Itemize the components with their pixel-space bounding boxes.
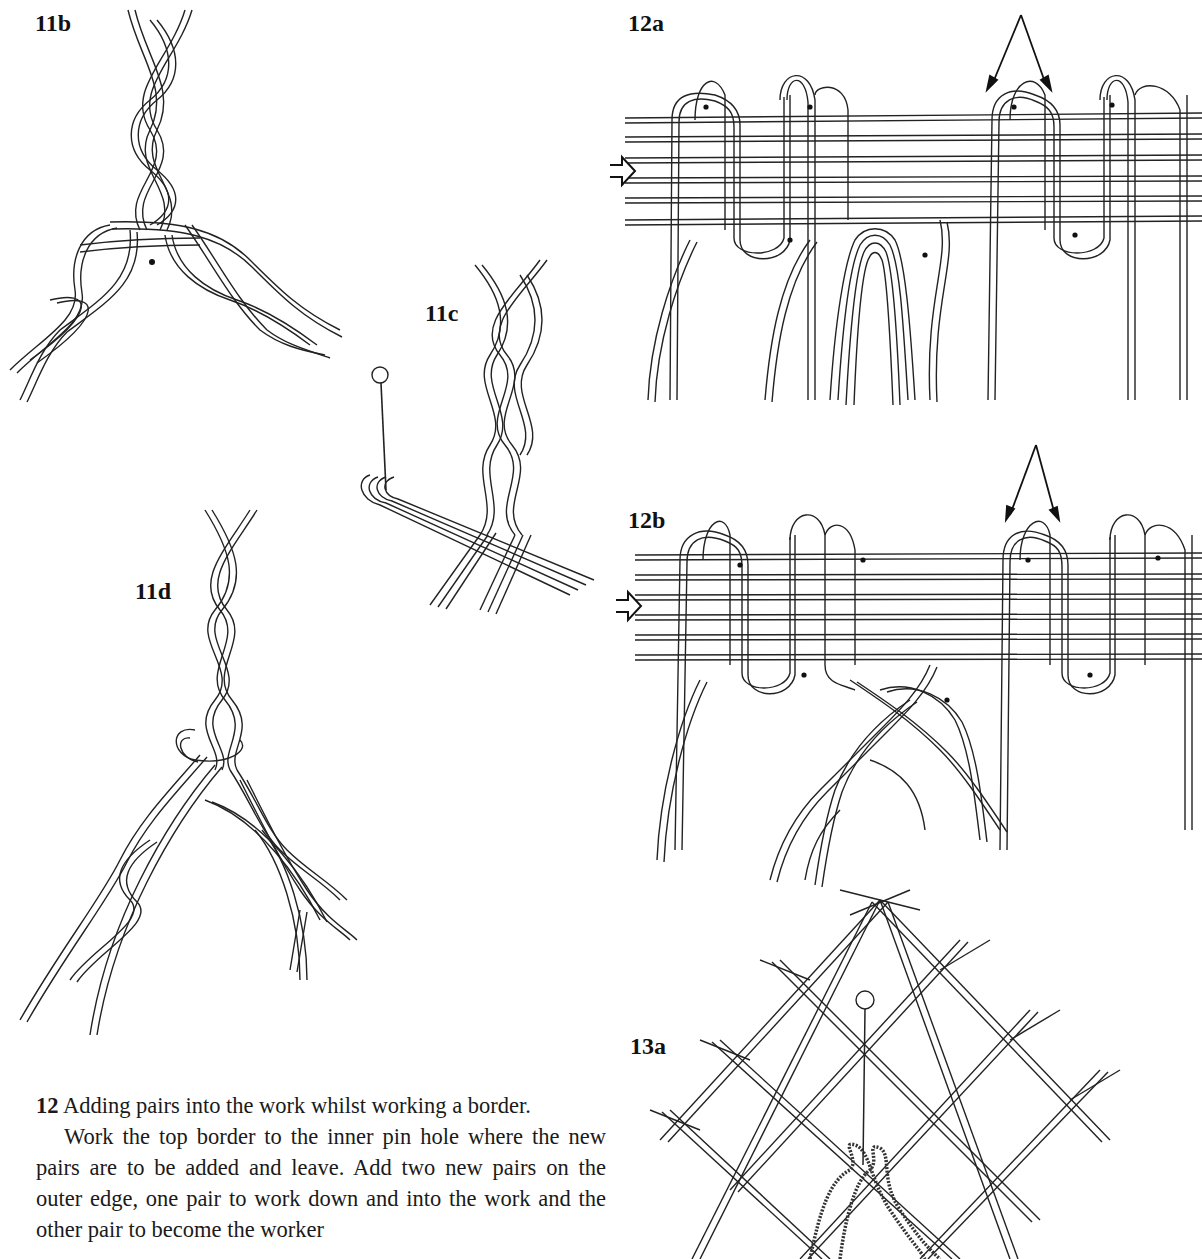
pin-head-icon: [372, 367, 388, 383]
pin-shaft: [381, 383, 386, 490]
border-adding-pairs-illustration-b: [580, 430, 1202, 890]
figure-11b: [0, 0, 360, 420]
twisted-ground-illustration: [580, 880, 1202, 1259]
border-loops: [670, 76, 1187, 400]
border-adding-pairs-illustration-a: [580, 0, 1202, 420]
plait-under-border: [770, 665, 1007, 887]
passive-threads: [625, 113, 1202, 225]
left-strands: [648, 240, 697, 402]
caption-title: Adding pairs into the work whilst workin…: [63, 1093, 531, 1118]
figure-12b: [580, 430, 1202, 890]
figure-12a: [580, 0, 1202, 420]
pin-shaft: [863, 1009, 865, 1165]
plait-split-illustration: [0, 0, 360, 420]
figure-caption: 12 Adding pairs into the work whilst wor…: [36, 1090, 606, 1245]
worker-pair-threads: [810, 1144, 940, 1259]
pin-head-icon: [856, 991, 874, 1009]
direction-arrow-icon: [616, 592, 641, 620]
plait-divide-illustration: [0, 500, 440, 1040]
pin-hole-dot: [149, 259, 155, 265]
direction-arrow-icon: [610, 157, 635, 185]
figure-11d: [0, 500, 440, 1040]
arrow-pointers: [1006, 445, 1059, 520]
caption-body: Work the top border to the inner pin hol…: [36, 1121, 606, 1245]
caption-number: 12: [36, 1093, 59, 1118]
added-pairs: [765, 220, 949, 405]
caption-heading: 12 Adding pairs into the work whilst wor…: [36, 1090, 606, 1121]
figure-13a: [580, 880, 1202, 1259]
arrow-pointers: [987, 15, 1051, 90]
